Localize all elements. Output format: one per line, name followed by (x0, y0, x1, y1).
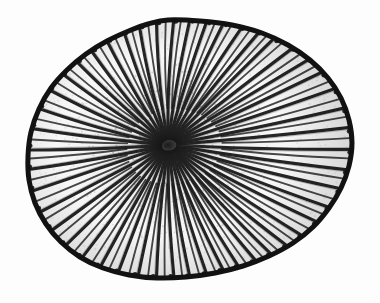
margin-lobe (224, 24, 227, 27)
margin-lobe (335, 190, 339, 194)
margin-lobe (258, 32, 262, 36)
margin-lobe (50, 86, 54, 90)
margin-lobe (274, 39, 278, 43)
margin-lobe (241, 27, 245, 31)
margin-lobe (133, 272, 138, 277)
margin-lobe (28, 144, 32, 148)
margin-lobe (115, 269, 119, 273)
margin-lobe (191, 20, 195, 24)
coral-illustration (0, 0, 380, 303)
margin-lobe (347, 129, 352, 134)
margin-lobe (33, 124, 36, 127)
margin-lobe (108, 39, 112, 43)
margin-lobe (266, 253, 270, 257)
margin-lobe (157, 21, 162, 26)
margin-lobe (291, 48, 295, 52)
margin-lobe (347, 150, 351, 154)
margin-lobe (40, 104, 44, 108)
margin-lobe (282, 245, 286, 249)
margin-lobe (343, 170, 348, 175)
margin-lobe (312, 222, 316, 226)
margin-lobe (64, 72, 68, 76)
margin-lobe (207, 21, 211, 25)
margin-lobe (77, 58, 82, 63)
margin-lobe (250, 259, 254, 263)
margin-lobe (234, 264, 238, 268)
margin-lobe (27, 164, 32, 169)
margin-lobe (173, 19, 178, 24)
margin-lobe (185, 273, 189, 277)
margin-lobe (92, 48, 97, 53)
margin-lobe (140, 25, 144, 29)
illustration-plate (0, 0, 380, 303)
margin-lobe (168, 274, 173, 279)
margin-lobe (37, 206, 41, 210)
margin-lobe (308, 59, 312, 63)
margin-lobe (77, 253, 81, 257)
margin-lobe (151, 274, 156, 279)
margin-lobe (342, 109, 346, 113)
margin-lobe (47, 224, 51, 228)
margin-lobe (324, 207, 329, 212)
margin-lobe (218, 268, 223, 273)
margin-lobe (96, 262, 100, 266)
margin-lobe (321, 73, 326, 78)
margin-lobe (297, 234, 301, 238)
margin-lobe (334, 90, 338, 94)
margin-lobe (125, 32, 129, 36)
margin-lobe (61, 240, 65, 244)
margin-lobe (30, 186, 34, 190)
margin-lobe (202, 271, 206, 275)
